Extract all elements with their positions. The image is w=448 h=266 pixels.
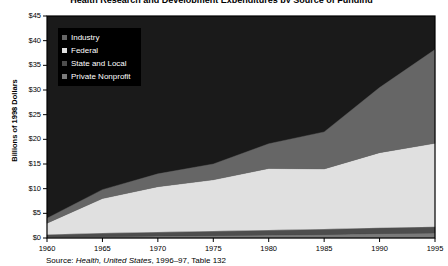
x-axis-tick-label: 1980 (249, 244, 289, 253)
x-axis-tick-label: 1985 (304, 244, 344, 253)
x-axis-tick-label: 1970 (138, 244, 178, 253)
legend-item-label: State and Local (71, 57, 127, 70)
y-axis-tick-label: $40 (13, 36, 41, 45)
source-note: Source: Health, United States, 1996–97, … (46, 256, 226, 265)
source-prefix: Source: (46, 256, 76, 265)
legend-item: State and Local (62, 57, 131, 70)
y-axis-tick-label: $5 (13, 208, 41, 217)
x-axis-tick-label: 1960 (27, 244, 67, 253)
y-axis-tick-label: $35 (13, 60, 41, 69)
x-axis-tick-label: 1975 (193, 244, 233, 253)
x-axis-tick-label: 1995 (415, 244, 448, 253)
y-axis-tick-label: $30 (13, 85, 41, 94)
chart-legend: IndustryFederalState and LocalPrivate No… (58, 28, 141, 86)
y-axis-tick-label: $10 (13, 184, 41, 193)
legend-item: Industry (62, 31, 131, 44)
y-axis-tick-label: $25 (13, 110, 41, 119)
legend-swatch-icon (62, 35, 67, 40)
legend-item-label: Private Nonprofit (71, 70, 131, 83)
legend-swatch-icon (62, 48, 67, 53)
y-axis-tick-label: $15 (13, 159, 41, 168)
y-axis-tick-label: $20 (13, 134, 41, 143)
y-axis-tick-label: $0 (13, 233, 41, 242)
legend-item: Federal (62, 44, 131, 57)
legend-item-label: Industry (71, 31, 99, 44)
legend-swatch-icon (62, 61, 67, 66)
legend-item: Private Nonprofit (62, 70, 131, 83)
legend-swatch-icon (62, 74, 67, 79)
x-axis-tick-label: 1965 (82, 244, 122, 253)
x-axis-tick-label: 1990 (360, 244, 400, 253)
source-suffix: , 1996–97, Table 132 (151, 256, 226, 265)
source-publication: Health, United States (76, 256, 152, 265)
y-axis-tick-label: $45 (13, 11, 41, 20)
legend-item-label: Federal (71, 44, 98, 57)
